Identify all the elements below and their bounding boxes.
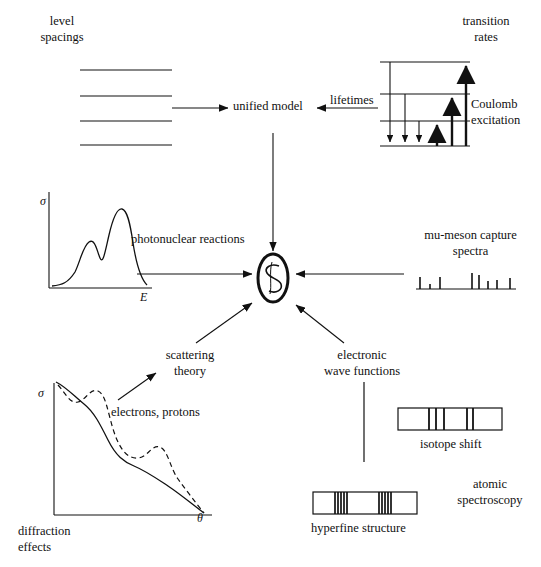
chart-photonuclear-cross-section bbox=[49, 192, 152, 288]
diagram-canvas: level spacings transition rates unified … bbox=[0, 0, 541, 567]
arrow-diffraction-to-scattering-theory bbox=[118, 373, 156, 400]
diagram-vectors bbox=[0, 0, 541, 567]
chart-mu-meson-capture-spectrum bbox=[416, 273, 516, 289]
level-spacings-lines bbox=[80, 70, 172, 145]
arrow-scattering-theory-to-nucleus bbox=[196, 303, 252, 343]
chart-hyperfine-structure-spectrum bbox=[313, 492, 417, 514]
chart-isotope-shift-spectrum bbox=[398, 408, 502, 430]
nucleus-symbol bbox=[258, 254, 288, 302]
arrow-electronic-wave-functions-to-nucleus bbox=[296, 305, 344, 343]
coulomb-excitation-level-scheme bbox=[380, 62, 470, 146]
chart-diffraction-angular-distribution bbox=[54, 382, 212, 515]
